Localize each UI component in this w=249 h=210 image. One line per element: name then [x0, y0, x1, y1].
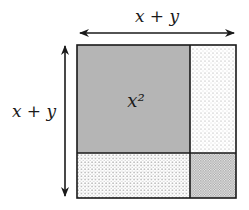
- area-model-diagram: x + y x + y x²: [0, 0, 249, 210]
- region-xy-right: [190, 45, 236, 153]
- left-label: x + y: [12, 101, 57, 121]
- region-xy-bottom: [77, 153, 190, 198]
- x-squared-label: x²: [127, 90, 144, 111]
- region-y-squared: [190, 153, 236, 198]
- top-dimension: x + y: [80, 6, 234, 33]
- top-label: x + y: [135, 6, 180, 26]
- left-dimension: x + y: [12, 46, 65, 196]
